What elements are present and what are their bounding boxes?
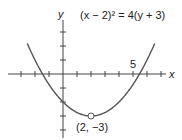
vertex-marker xyxy=(88,113,94,119)
parabola-chart: y x (x − 2)² = 4(y + 3) 5 (2, −3) xyxy=(0,0,182,140)
parabola-curve xyxy=(27,44,154,116)
y-axis-label: y xyxy=(57,8,65,20)
equation-label: (x − 2)² = 4(y + 3) xyxy=(80,9,165,21)
vertex-label: (2, −3) xyxy=(76,121,108,133)
x-tick-5-label: 5 xyxy=(130,58,136,70)
x-axis-label: x xyxy=(168,68,175,80)
